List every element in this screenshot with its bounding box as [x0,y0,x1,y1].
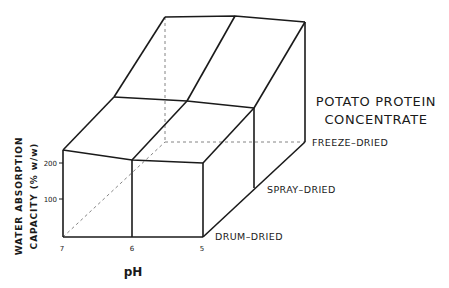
x-tick-5: 5 [200,245,204,253]
figure: 200 100 WATER ABSORPTION CAPACITY (% w/w… [0,0,449,288]
surface-plot: 200 100 WATER ABSORPTION CAPACITY (% w/w… [0,0,449,288]
spray-dried-edge [114,97,254,108]
y-tick-100: 100 [44,196,57,204]
x-axis: 7 6 5 pH [60,245,204,279]
title-line1: POTATO PROTEIN [316,94,436,109]
label-spray-dried: SPRAY–DRIED [267,184,336,195]
depth-labels: DRUM–DRIED SPRAY–DRIED FREEZE–DRIED [215,137,388,242]
title-line2: CONCENTRATE [324,112,427,127]
x-tick-6: 6 [130,245,135,253]
label-freeze-dried: FREEZE–DRIED [312,137,388,148]
y-axis: 200 100 WATER ABSORPTION CAPACITY (% w/w… [14,137,63,256]
hidden-edges [63,17,305,237]
y-axis-label-line2: CAPACITY (% w/w) [29,143,39,250]
drum-dried-top-edge [63,150,203,163]
y-tick-200: 200 [44,160,57,168]
label-drum-dried: DRUM–DRIED [215,231,283,242]
x-axis-label: pH [124,265,143,279]
surface-edges [63,16,305,237]
y-axis-label-line1: WATER ABSORPTION [14,137,24,256]
x-tick-7: 7 [60,245,64,253]
figure-title: POTATO PROTEIN CONCENTRATE [316,94,436,127]
